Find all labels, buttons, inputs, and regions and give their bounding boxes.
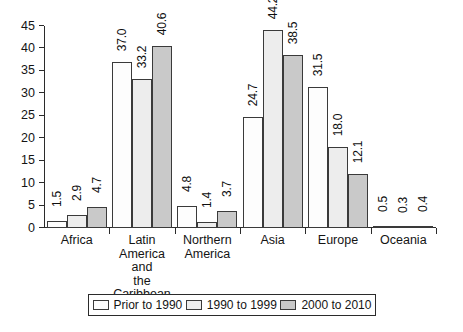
legend-item[interactable]: 1990 to 1999 xyxy=(186,298,277,312)
bar-group-bars: 37.033.240.6 xyxy=(109,26,174,228)
category-label-line: Northern xyxy=(175,234,240,248)
chart-legend: Prior to 19901990 to 19992000 to 2010 xyxy=(88,294,376,316)
category-label-line: America xyxy=(175,248,240,262)
bar[interactable] xyxy=(112,62,132,228)
bar-value-label: 4.8 xyxy=(181,176,193,192)
y-axis-tick-label: 30 xyxy=(21,87,35,100)
legend-swatch xyxy=(93,300,109,310)
bar-column[interactable]: 24.7 xyxy=(243,26,263,228)
bar-group: 24.744.238.5 xyxy=(240,26,305,228)
bar[interactable] xyxy=(197,222,217,228)
bar-column[interactable]: 12.1 xyxy=(348,26,368,228)
legend-item[interactable]: 2000 to 2010 xyxy=(280,298,371,312)
bar-column[interactable]: 1.5 xyxy=(47,26,67,228)
x-axis-tick xyxy=(436,228,437,234)
bar-column[interactable]: 18.0 xyxy=(328,26,348,228)
bar-column[interactable]: 4.8 xyxy=(177,26,197,228)
bar-group: 37.033.240.6 xyxy=(109,26,174,228)
bar[interactable] xyxy=(393,226,413,228)
bar-value-label: 37.0 xyxy=(116,29,128,52)
bar[interactable] xyxy=(413,226,433,228)
bar-column[interactable]: 0.5 xyxy=(373,26,393,228)
legend-swatch xyxy=(186,300,202,310)
bar[interactable] xyxy=(263,30,283,228)
bar-value-label: 2.9 xyxy=(71,185,83,201)
bar-group: 1.52.94.7 xyxy=(44,26,109,228)
bar-column[interactable]: 31.5 xyxy=(308,26,328,228)
bar[interactable] xyxy=(243,117,263,228)
bar-value-label: 0.5 xyxy=(377,196,389,212)
bar-value-label: 3.7 xyxy=(221,181,233,197)
category-label-line: Africa xyxy=(44,234,109,248)
bar-value-label: 38.5 xyxy=(287,22,299,45)
category-label: Asia xyxy=(240,234,305,248)
y-axis-tick-label: 35 xyxy=(21,64,35,77)
bar-column[interactable]: 33.2 xyxy=(132,26,152,228)
y-axis-tick-label: 20 xyxy=(21,131,35,144)
bar[interactable] xyxy=(348,174,368,228)
category-label-line: Asia xyxy=(240,234,305,248)
bar[interactable] xyxy=(328,147,348,228)
legend-label: Prior to 1990 xyxy=(114,298,183,312)
bar-column[interactable]: 40.6 xyxy=(152,26,172,228)
bar-column[interactable]: 44.2 xyxy=(263,26,283,228)
legend-swatch xyxy=(280,300,296,310)
y-axis-tick-label: 0 xyxy=(28,221,35,234)
bar-column[interactable]: 38.5 xyxy=(283,26,303,228)
bar-value-label: 31.5 xyxy=(312,53,324,76)
bar-value-label: 1.5 xyxy=(51,191,63,207)
bar[interactable] xyxy=(132,79,152,228)
category-label: LatinAmerica andthe Caribbean xyxy=(109,234,174,302)
bar[interactable] xyxy=(152,46,172,228)
category-label-line: America and xyxy=(109,248,174,275)
bar-value-label: 24.7 xyxy=(247,84,259,107)
y-axis-tick-label: 10 xyxy=(21,176,35,189)
category-label-line: Latin xyxy=(109,234,174,248)
y-axis-tick-label: 40 xyxy=(21,42,35,55)
bar-group: 0.50.30.4 xyxy=(371,26,436,228)
bar-value-label: 18.0 xyxy=(332,114,344,137)
bar[interactable] xyxy=(217,211,237,228)
category-label: NorthernAmerica xyxy=(175,234,240,261)
bar[interactable] xyxy=(47,221,67,228)
bar[interactable] xyxy=(87,207,107,228)
bar[interactable] xyxy=(283,55,303,228)
category-label: Oceania xyxy=(371,234,436,248)
y-axis-tick-label: 25 xyxy=(21,109,35,122)
legend-item[interactable]: Prior to 1990 xyxy=(93,298,183,312)
bar[interactable] xyxy=(67,215,87,228)
bar-group-bars: 24.744.238.5 xyxy=(240,26,305,228)
bar[interactable] xyxy=(177,206,197,228)
bar-value-label: 0.3 xyxy=(397,197,409,213)
bar-column[interactable]: 0.3 xyxy=(393,26,413,228)
bar-column[interactable]: 37.0 xyxy=(112,26,132,228)
legend-label: 2000 to 2010 xyxy=(301,298,371,312)
bar-column[interactable]: 3.7 xyxy=(217,26,237,228)
bar-group-bars: 0.50.30.4 xyxy=(371,26,436,228)
bar-group-bars: 1.52.94.7 xyxy=(44,26,109,228)
bar-value-label: 1.4 xyxy=(201,192,213,208)
bar-value-label: 0.4 xyxy=(417,196,429,212)
y-axis-tick-label: 45 xyxy=(21,19,35,32)
bar-column[interactable]: 2.9 xyxy=(67,26,87,228)
category-label-line: Oceania xyxy=(371,234,436,248)
bar-value-label: 12.1 xyxy=(352,140,364,163)
bar[interactable] xyxy=(308,87,328,228)
bar-group: 4.81.43.7 xyxy=(175,26,240,228)
y-axis-tick-label: 5 xyxy=(28,199,35,212)
bar[interactable] xyxy=(373,226,393,228)
category-label: Europe xyxy=(305,234,370,248)
bar-column[interactable]: 1.4 xyxy=(197,26,217,228)
bar-value-label: 40.6 xyxy=(156,12,168,35)
bar-column[interactable]: 4.7 xyxy=(87,26,107,228)
legend-label: 1990 to 1999 xyxy=(207,298,277,312)
bar-group-bars: 4.81.43.7 xyxy=(175,26,240,228)
bar-group: 31.518.012.1 xyxy=(305,26,370,228)
category-label-line: Europe xyxy=(305,234,370,248)
bar-value-label: 33.2 xyxy=(136,46,148,69)
plot-area: 051015202530354045 1.52.94.737.033.240.6… xyxy=(44,26,436,228)
bar-group-bars: 31.518.012.1 xyxy=(305,26,370,228)
bar-column[interactable]: 0.4 xyxy=(413,26,433,228)
category-label: Africa xyxy=(44,234,109,248)
bar-value-label: 4.7 xyxy=(91,177,103,193)
